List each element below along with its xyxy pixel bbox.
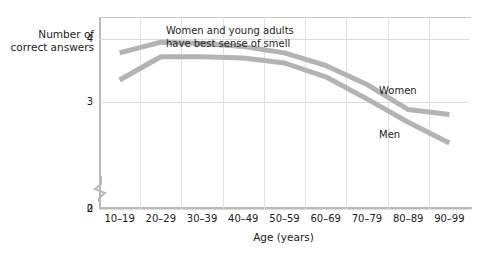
x-axis-title: Age (years) <box>95 231 472 243</box>
series-label-men: Men <box>379 129 400 140</box>
series-line-women <box>120 42 450 114</box>
gridline-y-2 <box>99 209 470 210</box>
series-label-women: Women <box>379 85 417 96</box>
y-tick-label-4: 4 <box>69 33 93 44</box>
chart-annotation: Women and young adults have best sense o… <box>166 25 316 50</box>
smell-sense-line-chart: Number of correct answers 0234 10–1920–2… <box>0 0 502 254</box>
y-tick-label-3: 3 <box>69 96 93 107</box>
x-tick-label-8: 90–99 <box>418 213 480 224</box>
